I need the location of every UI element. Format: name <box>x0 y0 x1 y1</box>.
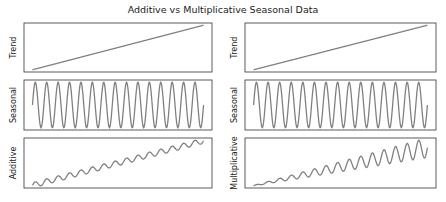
y-axis-label: Multiplicative <box>230 136 239 189</box>
line-series <box>32 140 203 185</box>
y-axis-label: Additive <box>9 147 18 180</box>
y-axis-label: Trend <box>230 37 239 60</box>
line-series <box>254 25 428 70</box>
subplot-multiplicative: Multiplicative <box>230 136 436 189</box>
subplot-seasonal: Seasonal <box>230 80 436 130</box>
line-series <box>32 82 203 127</box>
chart-area: TrendSeasonalAdditiveTrendSeasonalMultip… <box>0 0 446 202</box>
axes-frame <box>245 138 436 188</box>
y-axis-label: Seasonal <box>230 87 239 123</box>
subplot-trend: Trend <box>230 23 436 72</box>
y-axis-label: Trend <box>9 37 18 60</box>
y-axis-label: Seasonal <box>9 87 18 123</box>
subplot-additive: Additive <box>9 138 212 188</box>
line-series <box>254 82 428 127</box>
subplot-seasonal: Seasonal <box>9 80 212 130</box>
line-series <box>32 25 203 70</box>
line-series <box>254 140 428 185</box>
subplot-trend: Trend <box>9 23 212 72</box>
